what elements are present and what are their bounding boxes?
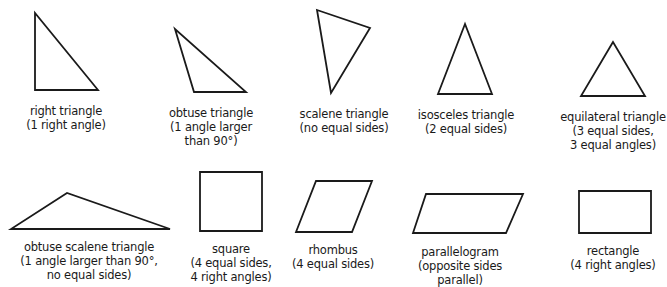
shape-name: rhombus bbox=[292, 243, 374, 257]
equilateral-triangle-caption: equilateral triangle (3 equal sides, 3 e… bbox=[560, 110, 666, 152]
shape-description: 3 equal angles) bbox=[560, 138, 666, 152]
shape-name: square bbox=[190, 242, 271, 256]
shape-description: no equal sides) bbox=[20, 268, 157, 282]
shape-description: (1 angle larger bbox=[169, 120, 253, 134]
shape-description: (1 right angle) bbox=[26, 118, 106, 132]
rhombus-shape bbox=[296, 181, 372, 232]
scalene-triangle-caption: scalene triangle (no equal sides) bbox=[300, 107, 389, 135]
shape-description: 4 right angles) bbox=[190, 270, 271, 284]
shape-name: obtuse scalene triangle bbox=[20, 240, 157, 254]
rhombus-caption: rhombus (4 equal sides) bbox=[292, 243, 374, 271]
shape-name: parallelogram bbox=[418, 245, 502, 259]
square-shape bbox=[200, 172, 262, 231]
rectangle-shape bbox=[579, 191, 651, 233]
shape-description: parallel) bbox=[418, 273, 502, 287]
equilateral-triangle-shape bbox=[581, 42, 645, 96]
square-caption: square (4 equal sides, 4 right angles) bbox=[190, 242, 271, 284]
right-triangle-caption: right triangle (1 right angle) bbox=[26, 104, 106, 132]
shape-description: (4 right angles) bbox=[570, 258, 655, 272]
obtuse-triangle-caption: obtuse triangle (1 angle larger than 90°… bbox=[169, 106, 253, 148]
shape-description: than 90°) bbox=[169, 134, 253, 148]
shape-description: (opposite sides bbox=[418, 259, 502, 273]
shape-name: equilateral triangle bbox=[560, 110, 666, 124]
obtuse-scalene-triangle-shape bbox=[11, 193, 170, 229]
rectangle-caption: rectangle (4 right angles) bbox=[570, 244, 655, 272]
scalene-triangle-shape bbox=[317, 10, 370, 93]
obtuse-triangle-shape bbox=[175, 29, 246, 92]
shape-description: (no equal sides) bbox=[300, 121, 389, 135]
shape-name: isosceles triangle bbox=[418, 108, 514, 122]
isosceles-triangle-shape bbox=[438, 24, 492, 94]
shape-description: (3 equal sides, bbox=[560, 124, 666, 138]
parallelogram-shape bbox=[413, 194, 523, 233]
isosceles-triangle-caption: isosceles triangle (2 equal sides) bbox=[418, 108, 514, 136]
shape-name: obtuse triangle bbox=[169, 106, 253, 120]
shape-name: rectangle bbox=[570, 244, 655, 258]
parallelogram-caption: parallelogram (opposite sides parallel) bbox=[418, 245, 502, 287]
obtuse-scalene-triangle-caption: obtuse scalene triangle (1 angle larger … bbox=[20, 240, 157, 282]
shape-description: (4 equal sides, bbox=[190, 256, 271, 270]
shape-description: (4 equal sides) bbox=[292, 257, 374, 271]
right-triangle-shape bbox=[35, 13, 98, 90]
shape-name: scalene triangle bbox=[300, 107, 389, 121]
shape-description: (1 angle larger than 90°, bbox=[20, 254, 157, 268]
shape-name: right triangle bbox=[26, 104, 106, 118]
shape-description: (2 equal sides) bbox=[418, 122, 514, 136]
